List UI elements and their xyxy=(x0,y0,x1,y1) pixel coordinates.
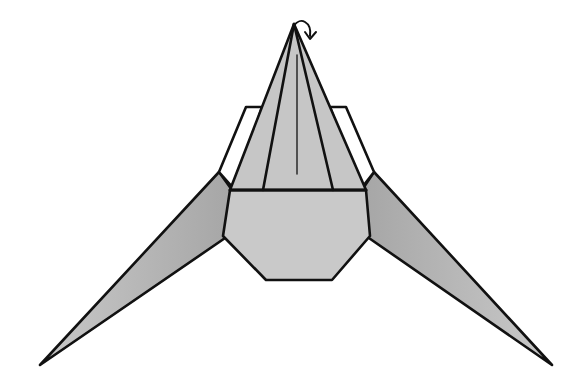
right-wing xyxy=(362,172,552,365)
origami-model-figure xyxy=(0,0,568,380)
hexagonal-body xyxy=(223,190,370,280)
left-wing xyxy=(40,172,232,365)
origami-diagram: Origami folding step — fold tip behind xyxy=(0,0,568,380)
